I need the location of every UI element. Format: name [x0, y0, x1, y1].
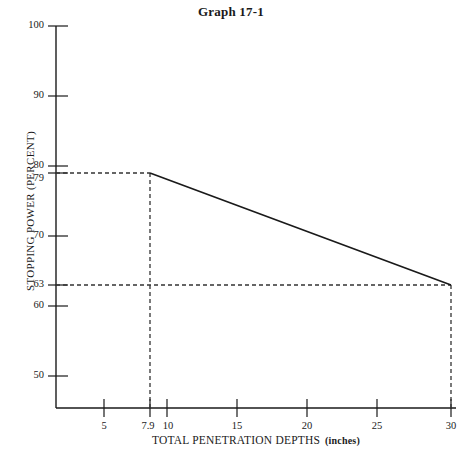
x-axis-title: TOTAL PENETRATION DEPTHS(inches) [56, 434, 456, 446]
y-tick-label-100: 100 [8, 19, 44, 30]
plot-area [0, 0, 462, 461]
x-tick-label-30: 30 [436, 420, 462, 431]
x-tick-label-25: 25 [362, 420, 392, 431]
y-axis-title: STOPPING POWER (PERCENT) [24, 101, 36, 321]
x-tick-label-5: 5 [84, 420, 124, 431]
x-axis-title-unit: (inches) [325, 435, 360, 446]
data-line-stopping-power [150, 173, 451, 285]
x-tick-label-10: 10 [158, 420, 178, 431]
x-tick-label-15: 15 [222, 420, 252, 431]
x-tick-label-20: 20 [292, 420, 322, 431]
y-tick-label-90: 90 [8, 89, 44, 100]
x-axis-title-text: TOTAL PENETRATION DEPTHS [152, 434, 320, 446]
y-tick-label-50: 50 [8, 369, 44, 380]
chart-figure: Graph 17-1 [0, 0, 462, 461]
y-axis-ticks [48, 26, 68, 376]
